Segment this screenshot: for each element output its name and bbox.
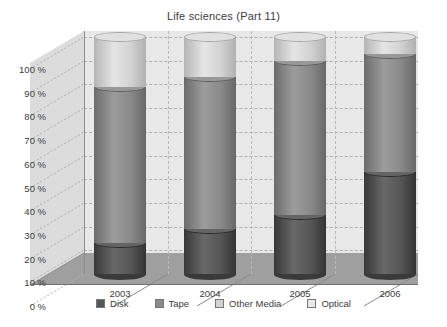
- bar-column[interactable]: [364, 0, 416, 327]
- bar-segment-body: [184, 229, 236, 274]
- bar-segment-body: [364, 54, 416, 173]
- y-axis-tick-label: 70 %: [0, 135, 46, 146]
- bar-segment-other-media[interactable]: [364, 37, 416, 54]
- bar-segment-body: [364, 172, 416, 274]
- legend-swatch-icon: [96, 299, 105, 308]
- legend-label: Other Media: [229, 298, 281, 309]
- y-axis-tick-label: 60 %: [0, 158, 46, 169]
- legend-label: Disk: [110, 298, 128, 309]
- y-axis-line: [84, 31, 85, 274]
- bar-segment-body: [94, 37, 146, 87]
- bar-segment-top-ellipse: [274, 32, 326, 42]
- bar-segment-top-ellipse: [94, 32, 146, 42]
- legend-item[interactable]: Optical: [307, 298, 351, 309]
- bar-segment-body: [274, 215, 326, 274]
- bar-segment-top-ellipse: [364, 32, 416, 42]
- bar-segment-body: [184, 37, 236, 77]
- legend-item[interactable]: Other Media: [215, 298, 281, 309]
- legend-label: Optical: [321, 298, 351, 309]
- gridline-vertical: [168, 31, 169, 274]
- y-axis-tick-label: 40 %: [0, 206, 46, 217]
- bar-segment-body: [184, 77, 236, 229]
- bar-segment-disk[interactable]: [274, 215, 326, 274]
- legend-item[interactable]: Disk: [96, 298, 128, 309]
- legend-swatch-icon: [307, 299, 316, 308]
- bar-segment-disk[interactable]: [94, 243, 146, 274]
- bar-segment-tape[interactable]: [184, 77, 236, 229]
- bar-column[interactable]: [184, 0, 236, 327]
- chart-legend: DiskTapeOther MediaOptical: [0, 298, 447, 309]
- chart-container: Life sciences (Part 11) 0 %10 %20 %30 %4…: [0, 0, 447, 327]
- y-axis-tick-label: 90 %: [0, 87, 46, 98]
- legend-item[interactable]: Tape: [155, 298, 190, 309]
- gridline-vertical: [335, 31, 336, 274]
- legend-swatch-icon: [215, 299, 224, 308]
- bar-column[interactable]: [94, 0, 146, 327]
- bar-segment-tape[interactable]: [364, 54, 416, 173]
- bar-segment-body: [274, 61, 326, 215]
- legend-swatch-icon: [155, 299, 164, 308]
- y-axis-tick-label: 80 %: [0, 111, 46, 122]
- y-axis-tick-label: 20 %: [0, 253, 46, 264]
- bar-segment-tape[interactable]: [274, 61, 326, 215]
- y-axis-tick-label: 100 %: [0, 64, 46, 75]
- y-axis-tick-label: 30 %: [0, 229, 46, 240]
- gridline-vertical: [251, 31, 252, 274]
- y-axis-tick-label: 50 %: [0, 182, 46, 193]
- bar-segment-disk[interactable]: [364, 172, 416, 274]
- y-axis-tick-label: 10 %: [0, 277, 46, 288]
- y-axis-tick-labels: 0 %10 %20 %30 %40 %50 %60 %70 %80 %90 %1…: [0, 0, 46, 327]
- bar-segment-tape[interactable]: [94, 87, 146, 243]
- bar-column[interactable]: [274, 0, 326, 327]
- bar-segment-body: [94, 87, 146, 243]
- bar-segment-other-media[interactable]: [274, 37, 326, 61]
- bar-segment-other-media[interactable]: [184, 37, 236, 77]
- bar-segment-disk[interactable]: [184, 229, 236, 274]
- legend-label: Tape: [169, 298, 190, 309]
- bar-segment-other-media[interactable]: [94, 37, 146, 87]
- bar-segment-top-ellipse: [184, 32, 236, 42]
